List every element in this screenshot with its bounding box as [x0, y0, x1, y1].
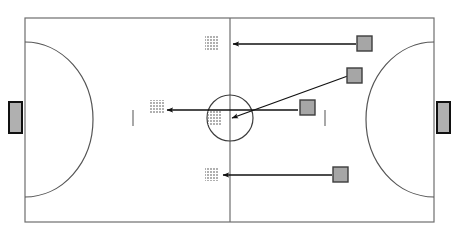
target-center — [208, 111, 222, 125]
goal-right — [437, 102, 450, 133]
player-top-right — [357, 36, 372, 51]
diagram-background — [0, 0, 465, 238]
goal-left — [9, 102, 22, 133]
target-top — [205, 36, 219, 50]
player-upper-middle — [347, 68, 362, 83]
player-center-right — [300, 100, 315, 115]
target-middle-left — [150, 100, 164, 114]
court-diagram-canvas — [0, 0, 465, 238]
player-bottom-right — [333, 167, 348, 182]
court-diagram-svg — [0, 0, 465, 238]
target-bottom — [205, 167, 219, 181]
